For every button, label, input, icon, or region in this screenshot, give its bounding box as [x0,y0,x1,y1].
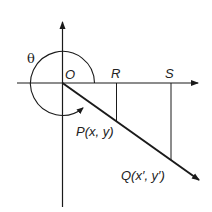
point-Q-label: Q(x′, y′) [121,168,165,183]
origin-label: O [65,67,75,82]
point-P-label: P(x, y) [76,124,114,139]
point-S-label: S [165,66,174,81]
rotation-diagram: θ O R S P(x, y) Q(x′, y′) [0,0,212,212]
point-R-label: R [111,66,120,81]
angle-theta-label: θ [27,51,35,66]
